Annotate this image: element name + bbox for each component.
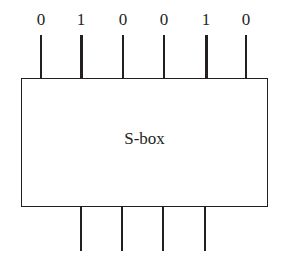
input-line-3 — [163, 35, 165, 79]
output-line-0 — [80, 207, 82, 251]
input-line-2 — [122, 35, 124, 79]
input-line-1-thick — [80, 35, 83, 79]
output-line-3 — [204, 207, 206, 251]
input-line-4-thick — [205, 35, 208, 79]
input-bit-3: 0 — [154, 10, 174, 30]
input-bit-1: 1 — [71, 10, 91, 30]
input-line-5 — [245, 35, 247, 79]
input-bit-2: 0 — [113, 10, 133, 30]
input-bit-5: 0 — [236, 10, 256, 30]
input-bit-4: 1 — [196, 10, 216, 30]
sbox-block: S-box — [21, 78, 268, 207]
input-line-0 — [40, 35, 42, 79]
sbox-label: S-box — [22, 129, 267, 149]
output-line-2 — [162, 207, 164, 251]
input-bit-0: 0 — [31, 10, 51, 30]
output-line-1 — [121, 207, 123, 251]
